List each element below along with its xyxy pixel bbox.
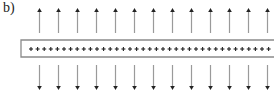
plus-charge-icon — [260, 47, 264, 51]
arrow-down-icon — [37, 65, 42, 90]
plus-charge-icon — [49, 47, 53, 51]
plus-charge-icon — [62, 47, 66, 51]
arrow-down-icon — [189, 65, 194, 90]
plus-charge-icon — [214, 47, 218, 51]
arrow-up-icon — [132, 8, 137, 33]
plus-charge-icon — [135, 47, 139, 51]
arrow-down-icon — [170, 65, 175, 90]
plus-charge-icon — [88, 47, 92, 51]
arrow-up-icon — [189, 8, 194, 33]
arrow-up-icon — [151, 8, 156, 33]
field-arrows-up — [37, 8, 270, 33]
charged-plate — [21, 40, 274, 57]
plus-charge-icon — [207, 47, 211, 51]
plus-charge-icon — [220, 47, 224, 51]
arrow-up-icon — [227, 8, 232, 33]
arrow-down-icon — [265, 65, 270, 90]
plus-charge-icon — [29, 47, 33, 51]
arrow-down-icon — [113, 65, 118, 90]
plus-charge-icon — [115, 47, 119, 51]
plus-charge-icon — [234, 47, 238, 51]
arrow-up-icon — [75, 8, 80, 33]
field-arrows-down — [37, 65, 270, 90]
charged-plate-diagram — [0, 0, 274, 98]
plus-charge-icon — [194, 47, 198, 51]
plus-charge-icon — [82, 47, 86, 51]
plus-charge-icon — [168, 47, 172, 51]
arrow-down-icon — [151, 65, 156, 90]
plus-charge-icon — [69, 47, 73, 51]
plus-charge-icon — [227, 47, 231, 51]
arrow-up-icon — [265, 8, 270, 33]
arrow-up-icon — [37, 8, 42, 33]
arrow-down-icon — [94, 65, 99, 90]
arrow-down-icon — [56, 65, 61, 90]
arrow-up-icon — [246, 8, 251, 33]
plus-charge-icon — [253, 47, 257, 51]
plus-charge-icon — [121, 47, 125, 51]
plus-charge-icon — [154, 47, 158, 51]
plus-charge-icon — [148, 47, 152, 51]
arrow-down-icon — [132, 65, 137, 90]
plus-charge-icon — [108, 47, 112, 51]
arrow-up-icon — [113, 8, 118, 33]
plus-charge-icon — [161, 47, 165, 51]
plus-charge-icon — [75, 47, 79, 51]
plus-charge-icon — [240, 47, 244, 51]
arrow-up-icon — [170, 8, 175, 33]
arrow-down-icon — [75, 65, 80, 90]
plus-charge-icon — [36, 47, 40, 51]
plus-charge-icon — [128, 47, 132, 51]
arrow-up-icon — [56, 8, 61, 33]
plus-charge-icon — [174, 47, 178, 51]
plus-charge-icon — [95, 47, 99, 51]
arrow-down-icon — [227, 65, 232, 90]
arrow-up-icon — [208, 8, 213, 33]
plus-charge-icon — [42, 47, 46, 51]
plus-charge-icon — [141, 47, 145, 51]
plus-charge-icon — [181, 47, 185, 51]
plus-charge-icon — [267, 47, 271, 51]
plus-charge-icon — [102, 47, 106, 51]
arrow-up-icon — [94, 8, 99, 33]
plus-charge-icon — [187, 47, 191, 51]
plus-charge-icon — [55, 47, 59, 51]
plus-charge-icon — [247, 47, 251, 51]
plus-charge-icon — [201, 47, 205, 51]
arrow-down-icon — [246, 65, 251, 90]
arrow-down-icon — [208, 65, 213, 90]
